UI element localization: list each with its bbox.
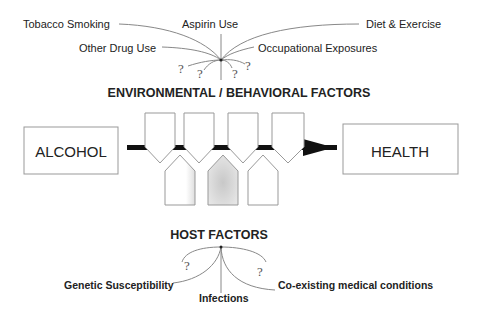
bottom-factor-shapes [165, 155, 278, 205]
unknown-marker: ? [257, 264, 263, 279]
environmental-heading: ENVIRONMENTAL / BEHAVIORAL FACTORS [108, 86, 371, 100]
health-label: HEALTH [371, 143, 429, 160]
top-factor-shapes [145, 113, 304, 163]
diagram-canvas: Tobacco Smoking Aspirin Use Diet & Exerc… [0, 0, 479, 312]
factor-other-drug-use: Other Drug Use [79, 42, 156, 54]
factor-diet-exercise: Diet & Exercise [366, 18, 441, 30]
unknown-marker: ? [197, 66, 203, 81]
host-factor-co-existing-conditions: Co-existing medical conditions [278, 279, 433, 291]
unknown-marker: ? [184, 258, 190, 273]
host-heading: HOST FACTORS [170, 228, 268, 242]
alcohol-label: ALCOHOL [35, 143, 107, 160]
unknown-marker: ? [232, 66, 238, 81]
unknown-marker: ? [245, 58, 251, 73]
host-factor-genetic-susceptibility: Genetic Susceptibility [64, 279, 174, 291]
factor-tobacco-smoking: Tobacco Smoking [23, 18, 110, 30]
convergence-point [219, 58, 222, 61]
unknown-marker: ? [178, 61, 184, 76]
factor-aspirin-use: Aspirin Use [182, 18, 238, 30]
host-factor-infections: Infections [199, 292, 249, 304]
arrow-head-icon [303, 139, 334, 156]
host-convergence-point [220, 246, 223, 249]
factor-occupational-exposures: Occupational Exposures [258, 42, 378, 54]
